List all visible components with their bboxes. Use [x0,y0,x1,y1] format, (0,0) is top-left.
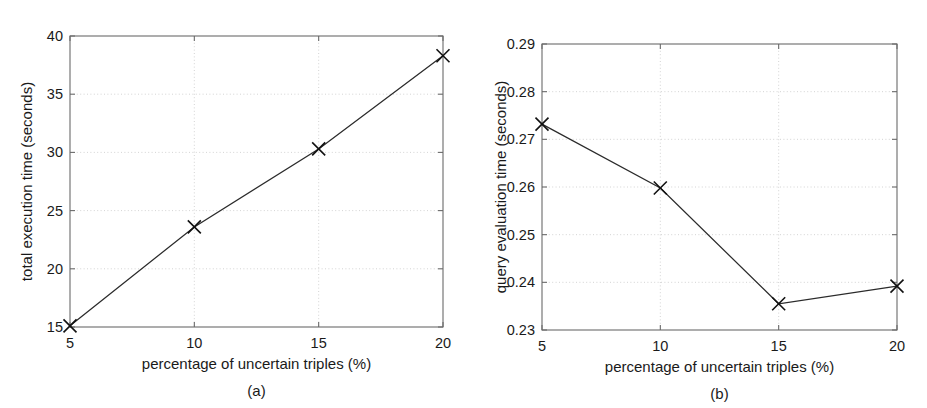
x-tick-label: 15 [771,338,787,354]
y-tick-label: 0.28 [507,84,535,100]
y-tick-label: 40 [47,28,63,44]
x-tick-label: 5 [66,335,74,351]
chart-a-svg: 152025303540 5101520 total execution tim… [0,0,467,408]
data-point-marker [188,220,201,233]
chart-a-axes [70,36,443,327]
y-tick-label: 0.24 [507,274,535,290]
chart-b-caption: (b) [710,385,728,402]
chart-b-x-tick-labels: 5101520 [538,338,905,354]
y-tick-label: 0.29 [507,36,535,52]
data-point-marker [312,142,325,155]
chart-b-svg: 0.230.240.250.260.270.280.29 5101520 que… [467,0,927,408]
y-tick-label: 35 [47,86,63,102]
x-tick-label: 20 [435,335,451,351]
y-tick-label: 0.23 [507,322,535,338]
y-tick-label: 20 [47,261,63,277]
chart-a-series-line [70,56,443,326]
figure-container: 152025303540 5101520 total execution tim… [0,0,927,408]
y-tick-label: 0.26 [507,179,535,195]
x-tick-label: 10 [652,338,668,354]
y-tick-label: 25 [47,203,63,219]
chart-a-x-tick-labels: 5101520 [66,335,451,351]
chart-a-tickmarks [70,36,443,327]
chart-b-gridlines [542,44,897,330]
chart-b-data-markers [536,118,904,311]
y-tick-label: 0.25 [507,227,535,243]
chart-panel-a: 152025303540 5101520 total execution tim… [0,0,467,408]
chart-panel-b: 0.230.240.250.260.270.280.29 5101520 que… [467,0,927,408]
y-tick-label: 0.27 [507,131,535,147]
chart-a-x-axis-title: percentage of uncertain triples (%) [142,355,371,372]
y-tick-label: 15 [47,319,63,335]
chart-b-series-line [542,124,897,304]
x-tick-label: 10 [186,335,202,351]
chart-a-gridlines [70,36,443,327]
y-tick-label: 30 [47,144,63,160]
chart-a-data-markers [64,49,450,332]
x-tick-label: 5 [538,338,546,354]
chart-b-y-axis-title: query evaluation time (seconds) [492,81,509,294]
chart-b-x-axis-title: percentage of uncertain triples (%) [605,358,834,375]
x-tick-label: 15 [311,335,327,351]
x-tick-label: 20 [889,338,905,354]
chart-a-y-axis-title: total execution time (seconds) [18,82,35,281]
chart-b-y-tick-labels: 0.230.240.250.260.270.280.29 [507,36,535,338]
chart-a-y-tick-labels: 152025303540 [47,28,63,335]
chart-a-caption: (a) [247,382,265,399]
